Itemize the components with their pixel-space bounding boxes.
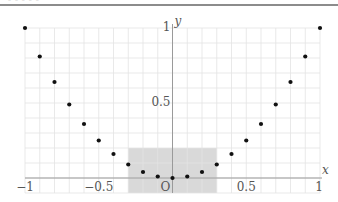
data-point <box>52 80 56 84</box>
x-tick-label: −1 <box>16 180 34 194</box>
data-point <box>82 122 86 126</box>
data-point <box>215 162 219 166</box>
data-point <box>303 54 307 58</box>
data-point <box>23 26 27 30</box>
data-point <box>318 26 322 30</box>
data-point <box>156 174 160 178</box>
data-point <box>244 138 248 142</box>
data-point <box>97 138 101 142</box>
data-point <box>111 152 115 156</box>
data-point <box>200 170 204 174</box>
y-tick-label: 1 <box>163 20 171 34</box>
data-point <box>126 162 130 166</box>
x-tick-label: 0.5 <box>237 180 256 194</box>
data-point <box>259 122 263 126</box>
data-point <box>67 102 71 106</box>
data-point <box>288 80 292 84</box>
data-point <box>229 152 233 156</box>
x-tick-label: −0.5 <box>84 180 113 194</box>
x-tick-label: O <box>161 180 171 194</box>
x-axis-label: x <box>322 163 329 177</box>
data-point <box>38 54 42 58</box>
scatter-plot: xy −1−0.5O0.510.51 <box>0 0 338 202</box>
data-point <box>170 176 174 180</box>
data-point <box>274 102 278 106</box>
data-point <box>141 170 145 174</box>
y-tick-label: 0.5 <box>151 95 170 109</box>
data-point <box>185 174 189 178</box>
x-tick-label: 1 <box>315 180 323 194</box>
y-axis-label: y <box>174 14 182 28</box>
